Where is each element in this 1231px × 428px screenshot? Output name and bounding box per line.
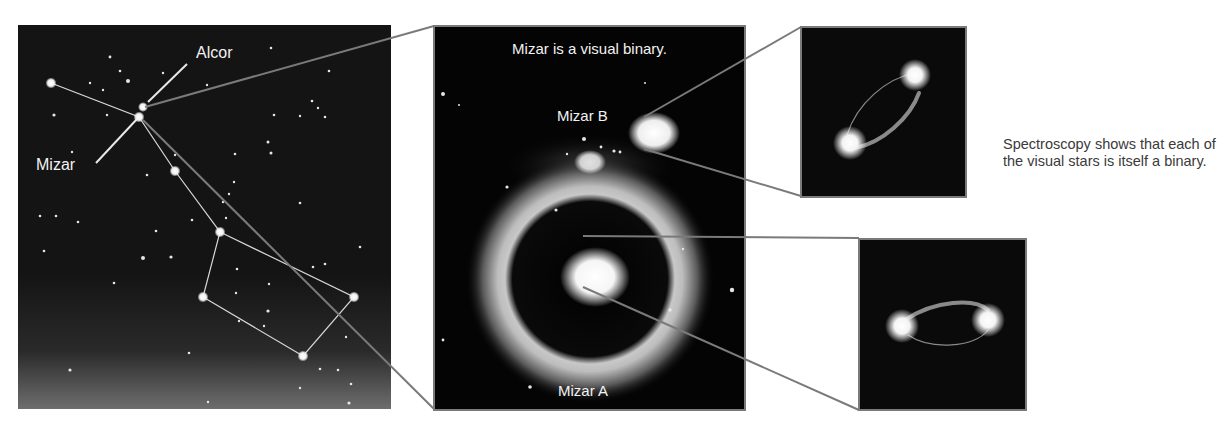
mizar-visual-binary-image (435, 27, 744, 409)
mizar-b-label: Mizar B (557, 107, 608, 124)
sky-chart-panel: Alcor Mizar (18, 25, 391, 409)
mizar-b-orbit-diagram (802, 28, 965, 196)
companion-star-2 (971, 303, 1005, 337)
companion-star-2 (833, 126, 867, 160)
mizar-a-spectroscopic-panel (858, 238, 1027, 411)
mizar-a-star (560, 247, 630, 307)
spectroscopy-caption: Spectroscopy shows that each of the visu… (1003, 136, 1231, 170)
mizar-a-orbit-diagram (860, 240, 1025, 409)
mizar-label: Mizar (36, 156, 75, 174)
big-dipper-constellation (18, 25, 391, 409)
major-stars (46, 78, 360, 362)
telescope-view-panel: Mizar is a visual binary. Mizar B Mizar … (433, 25, 746, 411)
background-stars (39, 47, 362, 405)
alcor-label: Alcor (196, 44, 232, 62)
mizar-a-label: Mizar A (558, 382, 608, 399)
companion-star-1 (899, 59, 931, 91)
visual-binary-title: Mizar is a visual binary. (435, 40, 744, 57)
mizar-b-star (628, 112, 680, 154)
companion-star-1 (885, 309, 919, 343)
constellation-lines (51, 83, 354, 356)
mizar-b-spectroscopic-panel (800, 26, 967, 198)
